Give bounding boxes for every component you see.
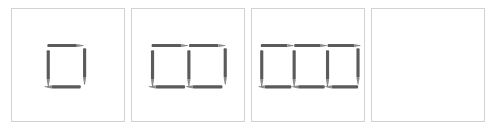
- pencil-horizontal-tip-right: [47, 44, 84, 47]
- panel-3[interactable]: [251, 8, 365, 122]
- pencil-vertical-tip-down: [83, 48, 86, 85]
- panel-1-figure: [12, 9, 124, 121]
- pencil-vertical-tip-down: [293, 50, 296, 87]
- pencil-vertical-tip-down: [260, 50, 263, 87]
- pencil-horizontal-tip-left: [291, 85, 324, 88]
- pencil-vertical-tip-down: [47, 50, 50, 87]
- panel-3-figure: [252, 9, 364, 121]
- matchstick-sequence-puzzle: empty answer panel: [0, 0, 490, 130]
- panel-2-figure: [132, 9, 244, 121]
- pencil-horizontal-tip-left: [325, 85, 358, 88]
- pencil-horizontal-tip-left: [148, 85, 185, 88]
- pencil-vertical-tip-down: [224, 48, 227, 85]
- pencil-horizontal-tip-right: [152, 44, 189, 47]
- panel-1[interactable]: [11, 8, 125, 122]
- panel-4-empty-label: empty answer panel: [372, 60, 484, 70]
- pencil-horizontal-tip-right: [294, 44, 327, 47]
- pencil-vertical-tip-down: [326, 50, 329, 87]
- pencil-vertical-tip-down: [187, 50, 190, 87]
- pencil-horizontal-tip-left: [258, 85, 291, 88]
- pencil-horizontal-tip-left: [186, 85, 223, 88]
- pencil-horizontal-tip-right: [261, 44, 294, 47]
- pencil-horizontal-tip-left: [44, 85, 81, 88]
- panel-2[interactable]: [131, 8, 245, 122]
- pencil-horizontal-tip-right: [328, 44, 361, 47]
- pencil-vertical-tip-down: [151, 50, 154, 87]
- panel-4[interactable]: empty answer panel: [371, 8, 485, 122]
- pencil-vertical-tip-down: [356, 48, 359, 85]
- pencil-horizontal-tip-right: [189, 44, 226, 47]
